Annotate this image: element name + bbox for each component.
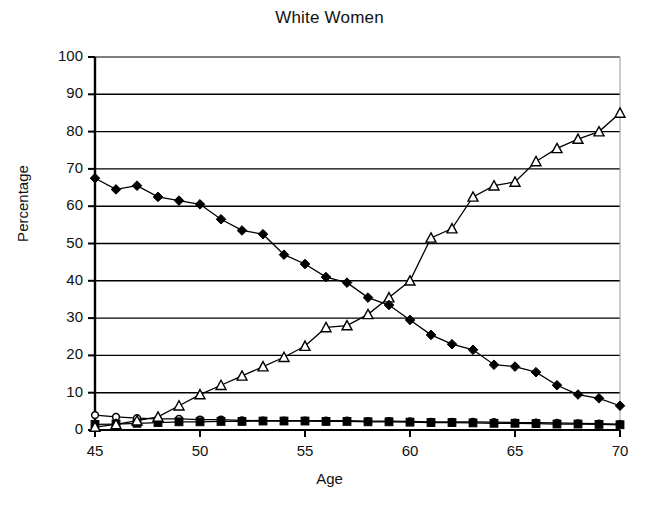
data-point-rising-series-48 xyxy=(153,412,163,421)
series-line-rising-series xyxy=(95,113,620,427)
series-declining-series xyxy=(90,173,625,410)
data-point-flat-lower-series-67 xyxy=(553,420,561,428)
data-point-flat-lower-series-49 xyxy=(175,418,183,426)
data-point-rising-series-67 xyxy=(552,143,562,152)
data-point-flat-lower-series-60 xyxy=(406,418,414,426)
data-series-layer xyxy=(90,108,625,431)
data-point-rising-series-66 xyxy=(531,156,541,165)
gridlines xyxy=(95,57,620,430)
data-point-rising-series-68 xyxy=(573,134,583,143)
axis-ticks xyxy=(88,57,620,437)
data-point-flat-lower-series-69 xyxy=(595,421,603,429)
data-point-flat-lower-series-66 xyxy=(532,420,540,428)
data-point-flat-lower-series-65 xyxy=(511,419,519,427)
data-point-declining-series-68 xyxy=(573,390,583,400)
data-point-rising-series-63 xyxy=(468,192,478,201)
data-point-rising-series-62 xyxy=(447,224,457,233)
data-point-flat-lower-series-55 xyxy=(301,417,309,425)
data-point-flat-lower-series-64 xyxy=(490,419,498,427)
data-point-flat-lower-series-52 xyxy=(238,418,246,426)
data-point-declining-series-62 xyxy=(447,339,457,349)
data-point-declining-series-70 xyxy=(615,401,625,411)
data-point-flat-lower-series-54 xyxy=(280,417,288,425)
data-point-rising-series-50 xyxy=(195,390,205,399)
data-point-flat-lower-series-50 xyxy=(196,418,204,426)
data-point-flat-lower-series-61 xyxy=(427,419,435,427)
data-point-declining-series-63 xyxy=(468,345,478,355)
data-point-flat-lower-series-70 xyxy=(616,421,624,429)
data-point-flat-lower-series-63 xyxy=(469,419,477,427)
data-point-declining-series-51 xyxy=(216,214,226,224)
data-point-flat-lower-series-57 xyxy=(343,418,351,426)
data-point-declining-series-55 xyxy=(300,259,310,269)
data-point-flat-lower-series-53 xyxy=(259,417,267,425)
plot-area xyxy=(0,0,659,508)
data-point-rising-series-49 xyxy=(174,401,184,410)
data-point-declining-series-69 xyxy=(594,393,604,403)
data-point-flat-lower-series-58 xyxy=(364,418,372,426)
data-point-declining-series-50 xyxy=(195,200,205,210)
data-point-declining-series-45 xyxy=(90,173,100,183)
data-point-flat-upper-series-45 xyxy=(92,412,99,419)
data-point-declining-series-60 xyxy=(405,315,415,325)
data-point-declining-series-64 xyxy=(489,360,499,370)
data-point-declining-series-52 xyxy=(237,226,247,236)
data-point-declining-series-58 xyxy=(363,293,373,303)
data-point-flat-lower-series-51 xyxy=(217,418,225,426)
data-point-flat-lower-series-56 xyxy=(322,418,330,426)
chart-figure: White Women Percentage Age 0102030405060… xyxy=(0,0,659,508)
data-point-declining-series-61 xyxy=(426,330,436,340)
data-point-rising-series-52 xyxy=(237,371,247,380)
data-point-flat-lower-series-62 xyxy=(448,419,456,427)
data-point-declining-series-67 xyxy=(552,380,562,390)
series-rising-series xyxy=(90,108,625,431)
series-line-flat-upper-series xyxy=(95,415,620,424)
data-point-rising-series-70 xyxy=(615,108,625,117)
data-point-declining-series-47 xyxy=(132,181,142,191)
data-point-declining-series-57 xyxy=(342,278,352,288)
data-point-declining-series-65 xyxy=(510,362,520,372)
data-point-rising-series-61 xyxy=(426,233,436,242)
data-point-flat-lower-series-59 xyxy=(385,418,393,426)
data-point-declining-series-66 xyxy=(531,367,541,377)
data-point-rising-series-51 xyxy=(216,380,226,389)
data-point-rising-series-53 xyxy=(258,362,268,371)
data-point-flat-lower-series-68 xyxy=(574,420,582,428)
data-point-declining-series-48 xyxy=(153,192,163,202)
series-flat-upper-series xyxy=(92,412,624,428)
data-point-rising-series-54 xyxy=(279,352,289,361)
data-point-declining-series-46 xyxy=(111,185,121,195)
data-point-rising-series-57 xyxy=(342,321,352,330)
series-line-declining-series xyxy=(95,178,620,406)
data-point-declining-series-49 xyxy=(174,196,184,206)
